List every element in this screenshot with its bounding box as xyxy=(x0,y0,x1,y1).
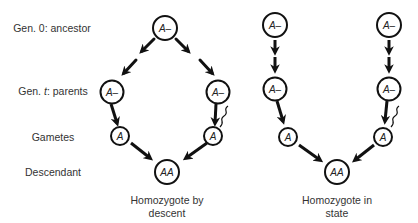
svg-text:A–: A– xyxy=(268,84,282,95)
svg-text:A–: A– xyxy=(158,23,172,34)
panel-state: A– A– A– A– A A AA xyxy=(263,13,401,184)
node-ancestor: A– xyxy=(153,16,177,40)
arrow-right-parent-to-gamete xyxy=(215,104,216,123)
mutation-squiggle-icon-2 xyxy=(391,106,399,127)
caption-descent: Homozygote by descent xyxy=(131,194,204,220)
caption-descent-line2: descent xyxy=(131,207,204,220)
arrow-right-gamete-to-descendant-2 xyxy=(355,145,374,160)
svg-text:A: A xyxy=(209,131,217,142)
node-descendant: AA xyxy=(155,160,179,184)
svg-text:A–: A– xyxy=(382,20,396,31)
node-gamete-left-2: A xyxy=(279,128,297,146)
panel-descent: A– A– A– A A AA xyxy=(101,16,230,184)
caption-state: Homozygote in state xyxy=(302,194,372,220)
caption-state-line2: state xyxy=(302,207,372,220)
diagram-canvas: A– A– A– A A AA xyxy=(0,0,418,223)
node-gamete-left: A xyxy=(111,127,129,145)
arrow-right-parent-to-gamete-2 xyxy=(385,101,387,121)
node-parent-left-2: A– xyxy=(264,78,287,101)
svg-text:A–: A– xyxy=(105,87,119,98)
svg-text:AA: AA xyxy=(329,167,344,178)
arrow-left-gamete-to-descendant-2 xyxy=(299,145,320,160)
arrow-ancestor-to-right-parent xyxy=(176,39,212,73)
svg-text:A: A xyxy=(379,132,387,143)
node-gamete-right-2: A xyxy=(374,128,392,146)
svg-text:A: A xyxy=(116,131,124,142)
arrow-ancestor-to-left-parent xyxy=(124,39,154,73)
mutation-squiggle-icon xyxy=(220,106,228,127)
node-parent-right-2: A– xyxy=(378,78,401,101)
node-parent-left: A– xyxy=(101,81,124,104)
node-parent-right: A– xyxy=(207,81,230,104)
svg-text:A–: A– xyxy=(211,87,225,98)
svg-text:AA: AA xyxy=(159,167,174,178)
node-ancestor-left: A– xyxy=(263,13,287,37)
node-ancestor-right: A– xyxy=(377,13,401,37)
node-descendant-2: AA xyxy=(325,160,349,184)
arrow-right-gamete-to-descendant xyxy=(186,143,207,158)
arrow-left-parent-to-gamete-2 xyxy=(277,101,283,121)
svg-text:A–: A– xyxy=(268,20,282,31)
arrow-left-gamete-to-descendant xyxy=(131,143,150,158)
caption-descent-line1: Homozygote by xyxy=(131,194,204,207)
arrow-left-parent-to-gamete xyxy=(111,104,117,123)
caption-state-line1: Homozygote in xyxy=(302,194,372,207)
svg-text:A–: A– xyxy=(382,84,396,95)
node-gamete-right: A xyxy=(204,127,222,145)
svg-text:A: A xyxy=(284,132,292,143)
